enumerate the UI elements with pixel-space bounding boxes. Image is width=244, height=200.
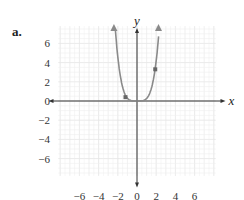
svg-text:−6: −6 (38, 153, 50, 165)
svg-text:−4: −4 (38, 133, 50, 145)
svg-text:−6: −6 (74, 190, 86, 200)
svg-text:−2: −2 (38, 114, 50, 126)
svg-text:0: 0 (134, 190, 140, 200)
svg-text:6: 6 (192, 190, 198, 200)
svg-text:0: 0 (45, 95, 51, 107)
svg-text:4: 4 (173, 190, 179, 200)
svg-text:−4: −4 (93, 190, 105, 200)
svg-text:2: 2 (153, 190, 159, 200)
svg-text:2: 2 (45, 76, 51, 88)
svg-text:6: 6 (45, 37, 51, 49)
chart: xy −6−4−202466420−2−4−6 (0, 0, 244, 200)
svg-text:y: y (132, 13, 140, 28)
svg-text:−2: −2 (112, 190, 124, 200)
svg-text:4: 4 (45, 57, 51, 69)
svg-text:x: x (227, 93, 234, 108)
